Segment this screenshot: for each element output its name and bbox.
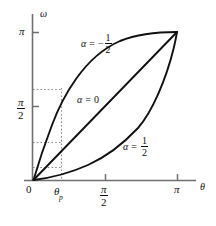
x-axis-name: θ bbox=[200, 182, 205, 192]
alpha-pos-half-numerator: 1 bbox=[141, 136, 148, 147]
alpha-zero-value: 0 bbox=[94, 95, 99, 105]
alpha-neg-half-equals: = bbox=[89, 39, 95, 49]
curve-label-alpha-neg-half: α = − 1 2 bbox=[81, 33, 112, 55]
alpha-zero-equals: = bbox=[85, 95, 91, 105]
alpha-neg-half-numerator: 1 bbox=[105, 33, 112, 44]
alpha-pos-half-equals: = bbox=[131, 142, 137, 152]
y-tick-pi-over-2-denominator: 2 bbox=[17, 109, 25, 121]
y-tick-label-pi-over-2: π 2 bbox=[17, 98, 25, 122]
x-tick-label-theta-p: θp bbox=[54, 186, 63, 200]
alpha-pos-half-symbol: α bbox=[123, 142, 128, 152]
x-tick-label-pi-over-2: π 2 bbox=[100, 185, 108, 209]
alpha-zero-symbol: α bbox=[77, 95, 82, 105]
origin-label: 0 bbox=[26, 184, 32, 195]
alpha-pos-half-denominator: 2 bbox=[141, 147, 148, 158]
curve-label-alpha-zero: α = 0 bbox=[77, 95, 99, 105]
theta-p-subscript: p bbox=[59, 193, 63, 202]
x-tick-pi-over-2-denominator: 2 bbox=[100, 196, 108, 208]
alpha-neg-half-sign: − bbox=[98, 39, 104, 49]
x-tick-label-pi: π bbox=[174, 184, 180, 195]
figure-container: ω θ π π 2 0 θp π 2 π α = − 1 2 bbox=[0, 0, 216, 226]
y-axis-name: ω bbox=[40, 9, 47, 19]
y-tick-pi-over-2-numerator: π bbox=[17, 97, 25, 109]
y-tick-label-pi: π bbox=[19, 26, 25, 37]
curve-label-alpha-pos-half: α = 1 2 bbox=[123, 136, 148, 158]
x-tick-pi-over-2-numerator: π bbox=[100, 184, 108, 196]
alpha-neg-half-symbol: α bbox=[81, 39, 86, 49]
alpha-neg-half-denominator: 2 bbox=[105, 44, 112, 55]
